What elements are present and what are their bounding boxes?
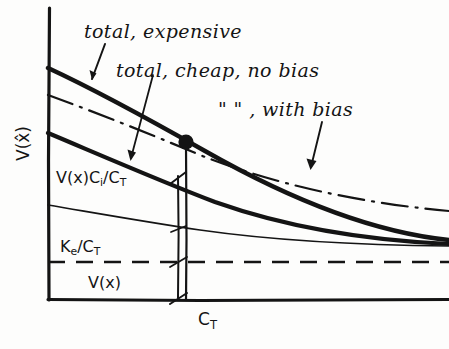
axes-group: [48, 8, 449, 301]
y-axis: [49, 8, 50, 300]
operating-point-marker: [178, 134, 193, 149]
label-ke-subscript-t: T: [94, 245, 101, 258]
x-axis-label: CT: [198, 311, 217, 331]
marker-dropline: [186, 144, 187, 300]
arrow-cheap: [131, 75, 153, 158]
label-vx-ci-over-ct: V(x)Ci/CT: [56, 170, 126, 189]
label-ke-mid: /C: [77, 237, 94, 256]
label-ke-base: K: [60, 237, 71, 256]
label-vx-ci-base: V(x)C: [56, 168, 100, 187]
label-vx: V(x): [88, 275, 121, 291]
y-axis-label: V(x̂): [15, 114, 32, 174]
x-axis: [48, 300, 449, 301]
bracket-vertical-line: [178, 176, 179, 298]
annotation-with-bias: " " , with bias: [218, 100, 353, 119]
figure-canvas: total, expensive total, cheap, no bias "…: [0, 0, 449, 349]
x-axis-label-subscript: T: [210, 318, 217, 332]
label-vx-ci-mid: /C: [103, 168, 120, 187]
annotation-total-expensive: total, expensive: [84, 22, 242, 41]
label-ke-over-ct: Ke/CT: [60, 239, 100, 258]
annotation-total-cheap-no-bias: total, cheap, no bias: [116, 61, 319, 80]
label-vx-ci-subscript-t: T: [120, 176, 127, 189]
arrow-with-bias-head: [307, 159, 317, 171]
arrow-cheap-head: [128, 150, 137, 162]
x-axis-label-base: C: [198, 309, 210, 329]
